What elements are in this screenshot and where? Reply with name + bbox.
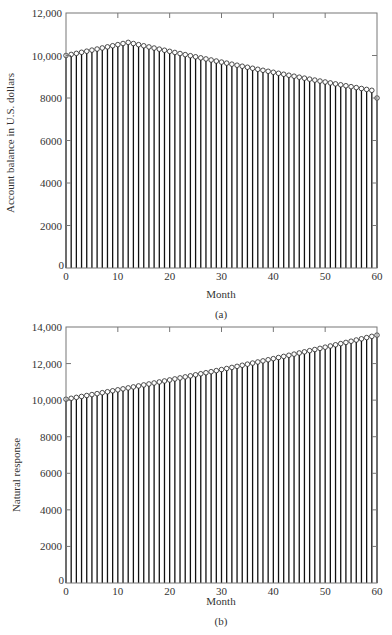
data-point-marker xyxy=(370,88,375,93)
data-point-marker xyxy=(105,45,110,50)
y-tick-label: 2000 xyxy=(40,540,63,552)
data-point-marker xyxy=(281,72,286,77)
data-point-marker xyxy=(90,48,95,53)
data-point-marker xyxy=(116,388,121,393)
data-point-marker xyxy=(364,87,369,92)
data-point-marker xyxy=(116,42,121,47)
data-point-marker xyxy=(219,367,224,372)
data-point-marker xyxy=(261,359,266,364)
data-point-marker xyxy=(219,60,224,65)
data-point-marker xyxy=(338,83,343,88)
x-tick-label: 20 xyxy=(164,270,176,282)
data-point-marker xyxy=(328,344,333,349)
data-point-marker xyxy=(370,334,375,339)
data-point-marker xyxy=(338,341,343,346)
y-tick-label: 12,000 xyxy=(32,7,63,19)
data-point-marker xyxy=(318,346,323,351)
x-tick-label: 10 xyxy=(112,270,124,282)
x-tick-label: 10 xyxy=(112,585,124,597)
data-point-marker xyxy=(84,49,89,54)
data-point-marker xyxy=(79,394,84,399)
data-point-marker xyxy=(271,356,276,361)
x-axis-title-b: Month xyxy=(206,595,236,607)
data-point-marker xyxy=(359,337,364,342)
data-point-marker xyxy=(250,66,255,71)
data-point-marker xyxy=(204,57,209,62)
data-point-marker xyxy=(162,379,167,384)
data-point-marker xyxy=(287,73,292,78)
data-point-marker xyxy=(281,354,286,359)
data-point-marker xyxy=(178,376,183,381)
data-point-marker xyxy=(224,366,229,371)
y-tick-label: 8000 xyxy=(40,92,63,104)
data-point-marker xyxy=(193,373,198,378)
data-point-marker xyxy=(188,53,193,58)
stem-series-b xyxy=(64,333,380,583)
data-point-marker xyxy=(214,368,219,373)
y-tick-label: 4000 xyxy=(40,177,63,189)
data-point-marker xyxy=(349,84,354,89)
data-point-marker xyxy=(266,357,271,362)
x-tick-label: 60 xyxy=(372,270,384,282)
x-tick-label: 20 xyxy=(164,585,176,597)
data-point-marker xyxy=(359,86,364,91)
caption-a: (a) xyxy=(215,308,228,321)
data-point-marker xyxy=(224,61,229,66)
data-point-marker xyxy=(307,77,312,82)
y-tick-label: 10,000 xyxy=(32,394,63,406)
data-point-marker xyxy=(266,69,271,74)
data-point-marker xyxy=(95,391,100,396)
y-tick-label: 2000 xyxy=(40,220,63,232)
data-point-marker xyxy=(261,68,266,73)
data-point-marker xyxy=(79,50,84,55)
data-point-marker xyxy=(245,362,250,367)
data-point-marker xyxy=(240,363,245,368)
data-point-marker xyxy=(100,390,105,395)
data-point-marker xyxy=(209,369,214,374)
data-point-marker xyxy=(162,48,167,53)
data-point-marker xyxy=(364,335,369,340)
data-point-marker xyxy=(235,63,240,68)
chart-panel-b: 0200040006000800010,00012,00014,00001020… xyxy=(10,321,383,628)
data-point-marker xyxy=(302,350,307,355)
data-point-marker xyxy=(193,54,198,59)
data-point-marker xyxy=(250,361,255,366)
data-point-marker xyxy=(84,393,89,398)
data-point-marker xyxy=(110,388,115,393)
x-tick-label: 0 xyxy=(63,270,69,282)
x-tick-label: 0 xyxy=(63,585,69,597)
data-point-marker xyxy=(323,345,328,350)
y-tick-label: 12,000 xyxy=(32,358,63,370)
data-point-marker xyxy=(344,340,349,345)
data-point-marker xyxy=(183,52,188,57)
data-point-marker xyxy=(333,82,338,87)
data-point-marker xyxy=(333,343,338,348)
data-point-marker xyxy=(167,378,172,383)
data-point-marker xyxy=(157,47,162,52)
data-point-marker xyxy=(313,347,318,352)
data-point-marker xyxy=(307,348,312,353)
x-tick-label: 50 xyxy=(320,585,332,597)
data-point-marker xyxy=(276,71,281,76)
data-point-marker xyxy=(126,386,131,391)
y-tick-label: 4000 xyxy=(40,504,63,516)
data-point-marker xyxy=(152,381,157,386)
y-axis-title-b: Natural response xyxy=(10,438,22,512)
y-tick-label: 6000 xyxy=(40,135,63,147)
data-point-marker xyxy=(204,370,209,375)
data-point-marker xyxy=(318,79,323,84)
y-tick-label: 8000 xyxy=(40,431,63,443)
data-point-marker xyxy=(354,338,359,343)
data-point-marker xyxy=(323,80,328,85)
data-point-marker xyxy=(297,351,302,356)
data-point-marker xyxy=(209,58,214,63)
stem-series-a xyxy=(64,40,380,268)
data-point-marker xyxy=(90,392,95,397)
x-tick-label: 60 xyxy=(372,585,384,597)
figure: 0200040006000800010,00012,00001020304050… xyxy=(0,0,392,635)
data-point-marker xyxy=(349,339,354,344)
data-point-marker xyxy=(69,52,74,57)
data-point-marker xyxy=(173,50,178,55)
data-point-marker xyxy=(354,85,359,90)
caption-b: (b) xyxy=(215,615,228,628)
